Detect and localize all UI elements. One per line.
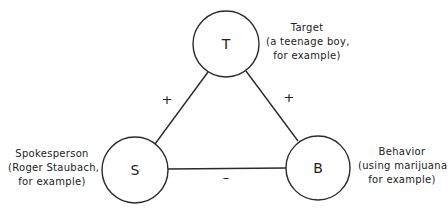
node-target-letter: T xyxy=(221,36,231,52)
behavior-label: Behavior (using marijuana, for example) xyxy=(358,145,446,187)
target-example-line2: for example) xyxy=(266,49,348,63)
sign-spokesperson-target: + xyxy=(162,92,173,107)
sign-spokesperson-behavior: – xyxy=(223,170,230,185)
target-label: Target (a teenage boy, for example) xyxy=(266,21,348,63)
spokesperson-example-line2: for example) xyxy=(8,175,96,189)
node-target: T xyxy=(193,11,259,77)
edge-target-behavior xyxy=(246,71,298,141)
behavior-example-line1: (using marijuana, xyxy=(358,159,446,173)
spokesperson-label: Spokesperson (Roger Staubach, for exampl… xyxy=(8,147,96,189)
node-spokesperson-letter: S xyxy=(131,162,140,178)
node-behavior-letter: B xyxy=(313,160,323,176)
target-example-line1: (a teenage boy, xyxy=(266,35,348,49)
spokesperson-example-line1: (Roger Staubach, xyxy=(8,161,96,175)
behavior-example-line2: for example) xyxy=(358,173,446,187)
sign-target-behavior: + xyxy=(284,90,295,105)
node-behavior: B xyxy=(286,136,350,200)
spokesperson-title: Spokesperson xyxy=(8,147,96,161)
target-title: Target xyxy=(266,21,348,35)
behavior-title: Behavior xyxy=(358,145,446,159)
edge-spokesperson-target xyxy=(155,72,208,144)
node-spokesperson: S xyxy=(102,137,168,203)
